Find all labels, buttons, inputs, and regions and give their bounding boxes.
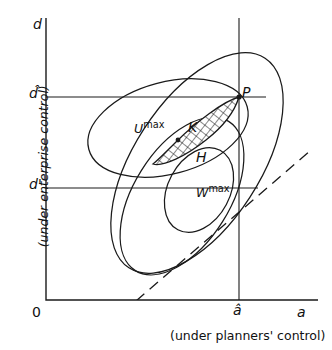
point-P-label: P (242, 85, 250, 99)
x-axis-label: (under planners' control) (170, 330, 325, 343)
u-max-exponent: max (143, 119, 164, 130)
u-max-indifference-curve (77, 62, 259, 193)
u-max-label: Umax (134, 120, 164, 136)
origin-label: 0 (32, 305, 41, 319)
y-tick-label-d-prime: d' (29, 177, 42, 191)
y-tick-label-d-hat: d̂ (29, 86, 38, 100)
w-max-base: W (196, 185, 208, 200)
point-H-label: H (196, 150, 207, 164)
point-K-marker (176, 138, 181, 143)
contract-curve-dashed (136, 150, 311, 301)
w-max-exponent: max (208, 183, 229, 194)
x-tick-label-a: a (297, 305, 306, 319)
y-axis-label: (under enterprise control) (38, 66, 51, 266)
figure-container: (under enterprise control) (under planne… (0, 0, 332, 350)
point-K-label: K (188, 120, 197, 134)
w-max-label: Wmax (196, 184, 230, 200)
u-max-base: U (134, 121, 143, 136)
w-max-contour (95, 96, 270, 296)
point-P-marker (236, 94, 241, 99)
axis-frame (46, 18, 318, 300)
x-tick-label-a-hat: â (233, 303, 242, 317)
y-tick-label-d: d (33, 17, 42, 31)
